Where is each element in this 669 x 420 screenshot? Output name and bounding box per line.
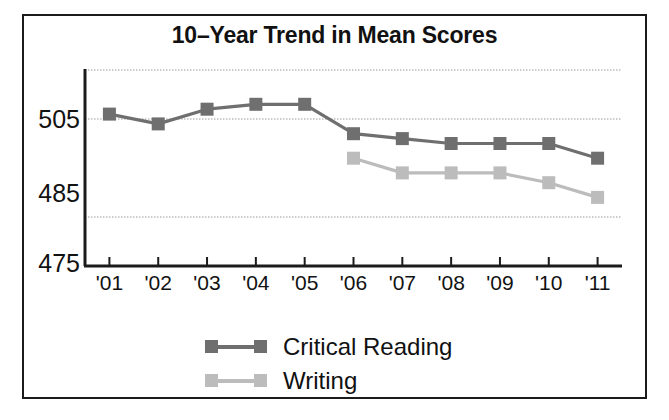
legend-marker-left-writing [205,374,218,387]
x-axis-tick-labels: '01'02'03'04'05'06'07'08'09'10'11 [85,272,622,306]
data-point-'07: Writing '07: 494 [396,166,409,179]
line-segment [158,109,207,124]
x-tick-label-'06: '06 [326,272,382,293]
line-segment [402,139,451,144]
data-point-'05: Critical Reading '05: 508 [298,98,311,111]
line-segment [207,104,256,109]
y-tick-label-475: 475 [18,251,80,276]
x-tick-label-'09: '09 [472,272,528,293]
data-point-'09: Writing '09: 494 [493,166,506,179]
legend-label-critical-reading: Critical Reading [283,333,452,361]
data-point-'04: Critical Reading '04: 508 [249,98,262,111]
x-tick-label-'01: '01 [81,272,137,293]
y-axis-tick-labels: 505 485 475 [14,0,80,420]
data-point-'10: Critical Reading '10: 500 [542,137,555,150]
x-tick-label-'10: '10 [521,272,577,293]
axes [84,69,622,266]
x-tick-label-'11: '11 [570,272,626,293]
data-point-'01: Critical Reading '01: 506 [103,108,116,121]
legend-item-critical-reading: Critical Reading [205,330,535,364]
data-point-'02: Critical Reading '02: 504 [152,117,165,130]
y-tick-label-485: 485 [18,181,80,206]
line-segment [549,183,598,198]
legend-marker-right-critical-reading [254,340,267,353]
y-tick-label-505: 505 [18,107,80,132]
line-segment [109,114,158,124]
line-segment [549,144,598,159]
data-point-'08: Writing '08: 494 [445,166,458,179]
legend-item-writing: Writing [205,364,535,398]
legend-label-writing: Writing [283,367,357,395]
data-point-'06: Writing '06: 497 [347,152,360,165]
x-tick-label-'07: '07 [374,272,430,293]
chart-plot-svg: Writing '06: 497Writing '07: 494Writing … [85,70,622,270]
data-point-'03: Critical Reading '03: 507 [201,103,214,116]
chart-title: 10–Year Trend in Mean Scores [0,22,669,49]
line-segment [500,173,549,183]
data-point-'11: Writing '11: 489 [591,191,604,204]
plot-area: Writing '06: 497Writing '07: 494Writing … [85,70,622,266]
series-writing: Writing '06: 497Writing '07: 494Writing … [347,152,604,204]
chart-legend: Critical Reading Writing [205,330,535,398]
x-tick-label-'05: '05 [277,272,333,293]
legend-swatch-critical-reading [205,340,267,354]
data-point-'10: Writing '10: 492 [542,176,555,189]
data-point-'06: Critical Reading '06: 502 [347,127,360,140]
x-tick-label-'03: '03 [179,272,235,293]
x-tick-label-'08: '08 [423,272,479,293]
data-point-'08: Critical Reading '08: 500 [445,137,458,150]
data-point-'09: Critical Reading '09: 500 [493,137,506,150]
legend-marker-left-critical-reading [205,340,218,353]
line-segment [354,158,403,173]
x-tick-label-'02: '02 [130,272,186,293]
legend-swatch-writing [205,374,267,388]
data-point-'11: Critical Reading '11: 497 [591,152,604,165]
legend-marker-right-writing [254,374,267,387]
line-segment [354,134,403,139]
x-tick-label-'04: '04 [228,272,284,293]
data-point-'07: Critical Reading '07: 501 [396,132,409,145]
